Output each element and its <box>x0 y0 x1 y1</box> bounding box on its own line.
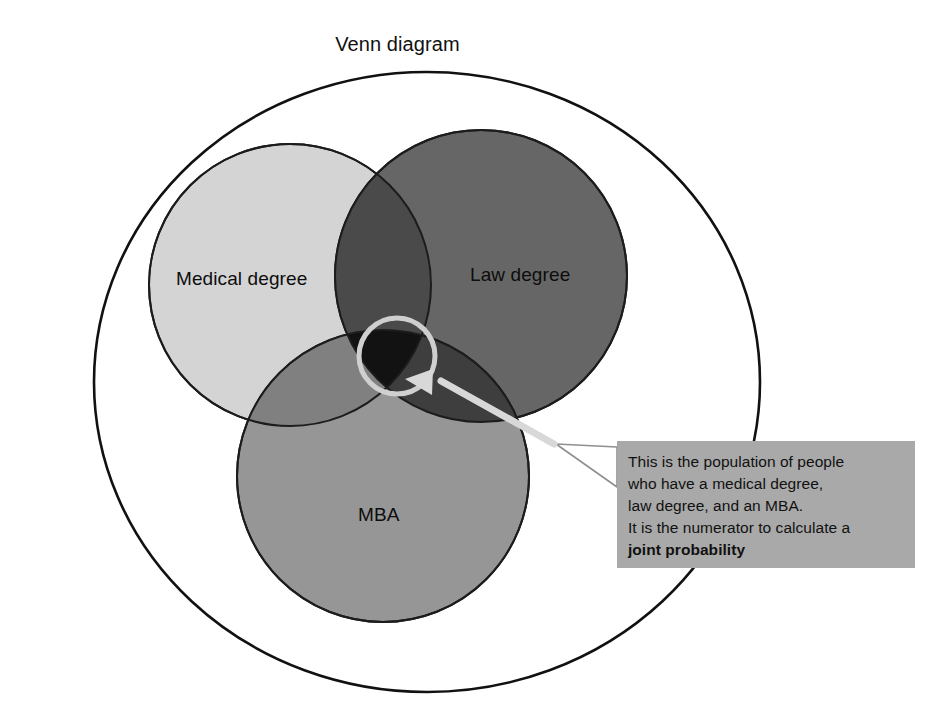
callout-line-3: law degree, and an MBA. <box>628 495 915 517</box>
venn-diagram-canvas <box>0 0 941 723</box>
callout-line-1: This is the population of people <box>628 451 915 473</box>
callout-box: This is the population of people who hav… <box>617 441 915 568</box>
callout-line-2: who have a medical degree, <box>628 473 915 495</box>
set-label-medical: Medical degree <box>176 268 307 290</box>
page-title: Venn diagram <box>0 33 795 56</box>
callout-connector <box>556 444 617 487</box>
set-label-law: Law degree <box>470 264 570 286</box>
callout-line-4: It is the numerator to calculate a <box>628 517 915 539</box>
venn-diagram-figure: Venn diagram Medical degree Law degree M… <box>0 0 941 723</box>
callout-line-5-emphasis: joint probability <box>628 539 915 561</box>
set-label-mba: MBA <box>358 504 399 526</box>
